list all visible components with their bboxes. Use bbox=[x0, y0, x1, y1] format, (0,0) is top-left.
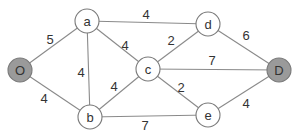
node-e: e bbox=[196, 103, 220, 127]
edge-weight-a-b: 4 bbox=[77, 65, 84, 80]
node-O: O bbox=[8, 58, 32, 82]
node-a: a bbox=[75, 9, 99, 33]
node-d: d bbox=[196, 12, 220, 36]
weighted-graph: 544444727264 OabcdeD bbox=[0, 0, 300, 139]
edge-c-D bbox=[148, 69, 279, 70]
edge-weight-O-a: 5 bbox=[46, 32, 53, 47]
node-label-d: d bbox=[204, 17, 211, 32]
edge-a-b bbox=[87, 21, 90, 117]
node-c: c bbox=[136, 57, 160, 81]
edge-weight-c-D: 7 bbox=[208, 53, 215, 68]
node-label-b: b bbox=[86, 110, 93, 125]
edge-weight-b-e: 7 bbox=[141, 118, 148, 133]
node-label-e: e bbox=[204, 108, 211, 123]
edge-weight-c-d: 2 bbox=[167, 33, 174, 48]
edge-weight-d-D: 6 bbox=[242, 28, 249, 43]
edge-weight-O-b: 4 bbox=[40, 91, 47, 106]
node-b: b bbox=[78, 105, 102, 129]
node-label-a: a bbox=[83, 14, 91, 29]
edge-weight-c-e: 2 bbox=[177, 80, 184, 95]
edge-weight-a-c: 4 bbox=[121, 38, 128, 53]
edge-weight-a-d: 4 bbox=[142, 7, 149, 22]
node-D: D bbox=[267, 58, 291, 82]
edge-b-e bbox=[90, 115, 208, 117]
edge-weight-b-c: 4 bbox=[110, 79, 117, 94]
edge-weight-e-D: 4 bbox=[242, 96, 249, 111]
node-label-O: O bbox=[15, 63, 25, 78]
node-label-D: D bbox=[274, 63, 283, 78]
node-label-c: c bbox=[145, 62, 152, 77]
